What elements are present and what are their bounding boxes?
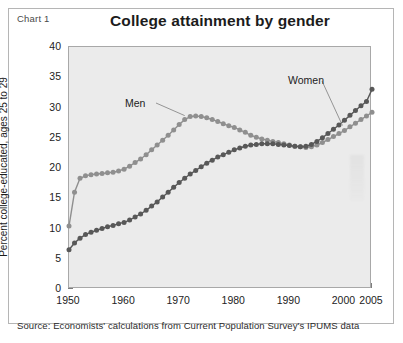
data-point [358, 117, 363, 122]
data-point [265, 141, 270, 146]
data-point [89, 172, 94, 177]
data-point [138, 211, 143, 216]
leader-line-women [322, 81, 342, 125]
series-women [67, 87, 375, 252]
data-point [105, 224, 110, 229]
x-tick-label: 1980 [211, 294, 255, 306]
x-tick-label: 1970 [156, 294, 200, 306]
y-tick-label: 15 [35, 191, 61, 203]
data-point [72, 190, 77, 195]
source-note: Source: Economists' calculations from Cu… [17, 320, 359, 331]
data-point [243, 144, 248, 149]
data-point [182, 117, 187, 122]
data-point [149, 147, 154, 152]
data-point [276, 142, 281, 147]
data-point [215, 155, 220, 160]
series-layer [69, 47, 372, 289]
data-point [342, 118, 347, 123]
data-point [94, 228, 99, 233]
data-point [83, 232, 88, 237]
plot-area [68, 46, 371, 288]
data-point [353, 108, 358, 113]
y-tick-label: 5 [35, 252, 61, 264]
data-point [364, 113, 369, 118]
data-point [72, 241, 77, 246]
data-point [78, 176, 83, 181]
data-point [155, 199, 160, 204]
data-point [221, 152, 226, 157]
data-point [259, 141, 264, 146]
data-point [89, 230, 94, 235]
x-tick-label: 1990 [266, 294, 310, 306]
y-tick-label: 20 [35, 161, 61, 173]
data-point [171, 127, 176, 132]
data-point [320, 135, 325, 140]
data-point [243, 130, 248, 135]
chart-number-label: Chart 1 [17, 13, 50, 24]
data-point [226, 123, 231, 128]
data-point [166, 133, 171, 138]
data-point [160, 195, 165, 200]
data-point [215, 119, 220, 124]
data-point [204, 161, 209, 166]
data-point [226, 150, 231, 155]
data-point [188, 114, 193, 119]
data-point [370, 87, 375, 92]
data-point [254, 142, 259, 147]
data-point [138, 156, 143, 161]
data-point [144, 208, 149, 213]
data-point [133, 215, 138, 220]
data-point [177, 122, 182, 127]
data-point [122, 167, 127, 172]
data-point [336, 123, 341, 128]
data-point [320, 140, 325, 145]
data-point [221, 121, 226, 126]
data-point [100, 171, 105, 176]
x-tick-label: 1960 [101, 294, 145, 306]
data-point [193, 168, 198, 173]
data-point [204, 115, 209, 120]
series-label-women: Women [288, 74, 324, 86]
data-point [122, 220, 127, 225]
series-label-men: Men [125, 97, 145, 109]
data-point [248, 143, 253, 148]
data-point [314, 139, 319, 144]
data-point [166, 190, 171, 195]
data-point [144, 152, 149, 157]
data-point [111, 170, 116, 175]
data-point [292, 144, 297, 149]
data-point [210, 117, 215, 122]
y-tick-label: 35 [35, 70, 61, 82]
data-point [254, 135, 259, 140]
data-point [353, 121, 358, 126]
data-point [248, 133, 253, 138]
data-point [331, 134, 336, 139]
data-point [177, 180, 182, 185]
data-point [116, 221, 121, 226]
y-tick-label: 30 [35, 101, 61, 113]
data-point [210, 158, 215, 163]
data-point [171, 185, 176, 190]
data-point [127, 164, 132, 169]
data-point [67, 247, 72, 252]
data-point [67, 224, 72, 229]
y-tick-label: 10 [35, 222, 61, 234]
data-point [94, 172, 99, 177]
data-point [149, 204, 154, 209]
data-point [100, 226, 105, 231]
data-point [111, 223, 116, 228]
data-point [325, 137, 330, 142]
data-point [116, 169, 121, 174]
data-point [133, 160, 138, 165]
data-point [237, 127, 242, 132]
y-axis-title: Percent college-educated, ages 25 to 29 [0, 46, 12, 288]
scan-watermark [350, 155, 364, 201]
x-tick-label: 2005 [349, 294, 393, 306]
data-point [325, 131, 330, 136]
data-point [364, 99, 369, 104]
data-point [347, 124, 352, 129]
chart-figure: Chart 1 College attainment by gender Per… [0, 0, 403, 343]
data-point [83, 173, 88, 178]
chart-title: College attainment by gender [60, 12, 380, 30]
data-point [287, 143, 292, 148]
